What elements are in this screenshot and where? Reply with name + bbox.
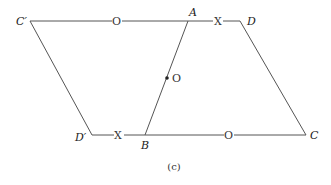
edge-right (240, 21, 306, 135)
mark-bottom-x: X (114, 129, 122, 142)
mark-top-x: X (214, 15, 222, 28)
label-d: D (246, 15, 256, 28)
mark-top-o: O (112, 15, 121, 28)
label-a: A (188, 6, 197, 19)
mark-bottom-o: O (224, 129, 233, 142)
edge-left (30, 21, 92, 135)
label-c: C (310, 129, 319, 142)
label-c-prime: C′ (16, 15, 27, 28)
label-b: B (140, 139, 149, 152)
center-point (165, 76, 169, 80)
parallelogram-diagram: O O X X O C′ A D D′ B C (c) (0, 0, 331, 185)
figure-caption: (c) (167, 161, 181, 172)
label-d-prime: D′ (74, 131, 87, 144)
center-label: O (172, 72, 181, 85)
